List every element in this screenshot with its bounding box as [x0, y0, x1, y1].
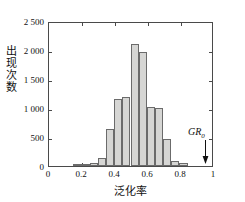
- down-arrow-icon: [202, 140, 209, 165]
- x-tick-label: 1: [211, 169, 216, 179]
- histogram-bar: [98, 158, 106, 166]
- histogram-bar: [139, 52, 147, 166]
- plot-area: [48, 22, 213, 167]
- histogram-bars: [49, 23, 212, 166]
- y-tick-label: 1 500: [10, 75, 44, 85]
- histogram-bar: [122, 97, 130, 166]
- y-tick-label: 2 000: [10, 46, 44, 56]
- histogram-bar: [179, 163, 187, 166]
- x-tick-label: 0.2: [75, 169, 86, 179]
- y-tick-label: 1 000: [10, 104, 44, 114]
- gr0-annotation-subscript: 0: [201, 132, 205, 140]
- histogram-bar: [147, 107, 155, 166]
- histogram-bar: [106, 129, 114, 166]
- x-tick-label: 0.8: [174, 169, 185, 179]
- gr0-annotation-label: GR0: [188, 126, 205, 140]
- histogram-bar: [171, 161, 179, 166]
- x-tick-label: 0.6: [141, 169, 152, 179]
- histogram-bar: [131, 44, 139, 166]
- y-tick-label: 2 500: [10, 17, 44, 27]
- histogram-bar: [163, 139, 171, 166]
- histogram-bar: [82, 164, 90, 166]
- gr0-annotation-text: GR: [188, 126, 201, 137]
- histogram-bar: [114, 99, 122, 166]
- histogram-figure: 出 现 次 数 0 500 1 000 1 500 2 000 2 500 0 …: [0, 0, 245, 202]
- x-axis-title: 泛化率: [48, 182, 213, 198]
- histogram-bar: [73, 164, 81, 166]
- x-tick-label: 0.4: [108, 169, 119, 179]
- y-tick-label: 500: [10, 133, 44, 143]
- histogram-bar: [90, 163, 98, 166]
- x-tick-label: 0: [46, 169, 51, 179]
- y-tick-label: 0: [10, 162, 44, 172]
- histogram-bar: [155, 108, 163, 166]
